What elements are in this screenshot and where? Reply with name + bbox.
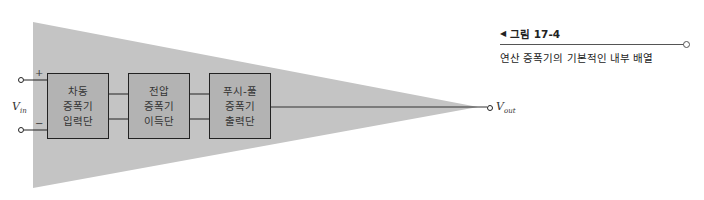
figure-description: 연산 증폭기의 기본적인 내부 배열 [500,50,690,65]
voltage-gain-stage-block: 전압 증폭기 이득단 [128,73,190,139]
caption-rule-end-circle-icon [683,41,690,48]
figure-number-text: 그림 17-4 [510,26,560,41]
block-label-line: 이득단 [144,114,174,129]
block-label-line: 차동 [68,84,88,99]
figure-caption: ◀ 그림 17-4 연산 증폭기의 기본적인 내부 배열 [500,26,690,65]
caption-rule-line [500,44,684,45]
output-voltage-subscript: out [504,107,516,115]
minus-symbol: − [35,118,43,129]
plus-symbol: + [35,67,43,78]
caption-rule [500,42,690,48]
push-pull-output-stage-block: 푸시-풀 증폭기 출력단 [209,73,271,139]
block-label-line: 증폭기 [144,99,174,114]
block-label-line: 증폭기 [63,99,93,114]
input-minus-terminal-icon [19,128,24,133]
left-triangle-icon: ◀ [500,29,506,38]
output-terminal-icon [488,106,493,111]
input-voltage-subscript: in [20,107,27,115]
block-label-line: 출력단 [225,114,255,129]
input-voltage-main: V [12,100,20,113]
block-label-line: 전압 [149,84,169,99]
figure-number: ◀ 그림 17-4 [500,26,690,40]
input-plus-terminal-icon [19,78,24,83]
input-voltage-label: Vin [12,100,27,115]
differential-input-stage-block: 차동 증폭기 입력단 [47,73,109,139]
output-voltage-main: V [496,100,504,113]
output-voltage-label: Vout [496,100,516,115]
block-label-line: 푸시-풀 [223,84,257,99]
block-label-line: 증폭기 [225,99,255,114]
block-label-line: 입력단 [63,114,93,129]
